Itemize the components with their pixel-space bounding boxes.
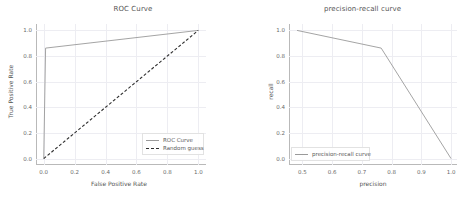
legend-label: ROC Curve xyxy=(163,137,193,143)
ytick-label: 1.0 xyxy=(271,27,285,33)
legend-label: precision-recall curve xyxy=(312,151,371,157)
axis-label-y-pr: recall xyxy=(267,62,274,122)
axis-label-y-roc: True Positive Rate xyxy=(7,62,14,122)
xtick-label: 1.0 xyxy=(194,169,203,175)
xtick-label: 0.0 xyxy=(39,169,48,175)
axis-label-x-pr: precision xyxy=(289,180,457,187)
xtick-label: 0.6 xyxy=(328,169,337,175)
ytick-label: 0.4 xyxy=(18,104,32,110)
xtick-label: 0.8 xyxy=(163,169,172,175)
legend-item[interactable]: precision-recall curve xyxy=(295,150,365,158)
xtick-label: 1.0 xyxy=(447,169,456,175)
legend-item[interactable]: Random guess xyxy=(146,144,199,152)
legend-swatch-icon xyxy=(146,137,159,143)
chart-title-pr: precision-recall curve xyxy=(238,5,475,13)
ytick-label: 0.2 xyxy=(18,130,32,136)
ytick-label: 0.0 xyxy=(271,156,285,162)
xtick-label: 0.8 xyxy=(387,169,396,175)
series-line xyxy=(297,30,451,158)
legend-item[interactable]: ROC Curve xyxy=(146,136,199,144)
xtick-label: 0.7 xyxy=(357,169,366,175)
figure-canvas: ROC Curve 0.00.20.40.60.81.0 0.00.20.40.… xyxy=(0,0,475,198)
plot-area-pr xyxy=(289,24,457,165)
chart-title-roc: ROC Curve xyxy=(0,5,252,13)
chart-panel-roc: ROC Curve 0.00.20.40.60.81.0 0.00.20.40.… xyxy=(0,0,238,198)
legend-swatch-icon xyxy=(295,151,308,157)
curves-pr xyxy=(289,24,457,165)
ytick-label: 0.6 xyxy=(18,79,32,85)
xtick-label: 0.4 xyxy=(101,169,110,175)
axis-label-x-roc: False Positive Rate xyxy=(0,180,238,187)
ytick-label: 0.8 xyxy=(271,53,285,59)
ytick-label: 0.0 xyxy=(18,156,32,162)
legend-pr[interactable]: precision-recall curve xyxy=(291,147,370,161)
ytick-label: 1.0 xyxy=(18,27,32,33)
xtick-label: 0.2 xyxy=(70,169,79,175)
xtick-label: 0.6 xyxy=(132,169,141,175)
legend-label: Random guess xyxy=(163,145,204,151)
ytick-label: 0.8 xyxy=(18,53,32,59)
legend-roc[interactable]: ROC CurveRandom guess xyxy=(142,133,204,155)
legend-swatch-icon xyxy=(146,145,159,151)
xtick-label: 0.5 xyxy=(298,169,307,175)
ytick-label: 0.2 xyxy=(271,130,285,136)
xtick-label: 0.9 xyxy=(417,169,426,175)
